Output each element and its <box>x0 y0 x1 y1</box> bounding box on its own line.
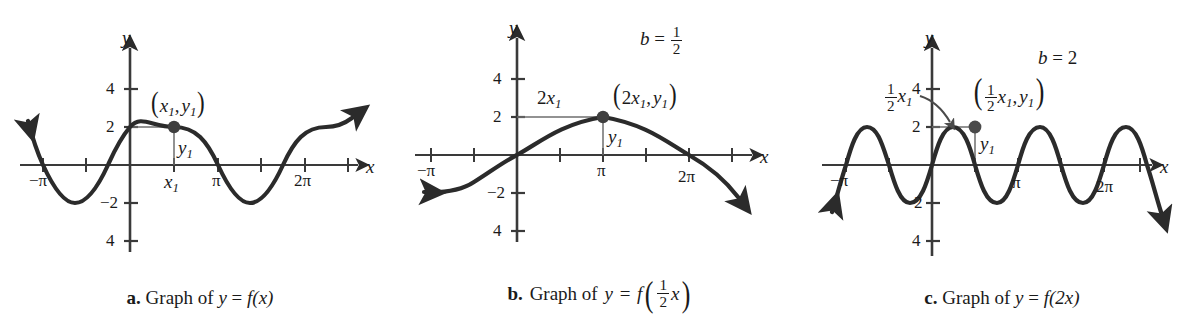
guide-x-denominator: 2 <box>885 97 897 114</box>
caption-y: y <box>218 287 226 308</box>
panel-c-b-value-annotation: b = 2 <box>1038 48 1077 67</box>
panel-c-svg <box>800 0 1204 276</box>
panel-c-marked-point <box>969 121 982 134</box>
panel-b-marked-point <box>597 111 609 123</box>
panel-c-y-axis-label: y <box>925 28 933 47</box>
panel-a-y-axis-label: y <box>122 28 130 47</box>
panel-b-y-axis-label: y <box>509 18 517 37</box>
guide-x-var: x <box>547 87 555 108</box>
caption-y: y <box>604 284 612 305</box>
panel-b-ytick-2: 2 <box>493 108 502 125</box>
paren-open: ( <box>151 92 159 113</box>
panel-a-guide-x-label: x1 <box>164 172 179 195</box>
annot-eq: = <box>654 28 665 49</box>
caption-body: Graph of <box>146 287 214 308</box>
panel-b-svg <box>400 0 800 276</box>
panel-b-ytick-neg4: 4 <box>493 222 502 239</box>
point-y-subscript: 1 <box>190 104 196 119</box>
panel-b-xtick-neg-pi: −π <box>417 162 435 179</box>
guide-x-subscript: 1 <box>906 94 912 109</box>
panel-a-x-axis-label: x <box>366 157 374 176</box>
guide-x-subscript: 1 <box>172 180 178 195</box>
panel-c-caption: c. Graph of y = f(2x) <box>800 288 1204 309</box>
caption-eq: = <box>232 287 243 308</box>
caption-prefix: a. <box>127 287 141 308</box>
point-y-var: y <box>181 95 189 116</box>
guide-x-subscript: 1 <box>555 96 561 111</box>
point-y-subscript: 1 <box>661 96 667 111</box>
panel-b-xtick-2pi: 2π <box>678 168 695 185</box>
annot-denominator: 2 <box>671 40 683 57</box>
caption-f: f <box>637 284 642 305</box>
panel-b-xtick-pi: π <box>597 162 606 179</box>
panel-a-ytick-4: 4 <box>106 80 115 97</box>
caption-x: x <box>671 284 679 305</box>
panel-a-marked-point <box>168 121 180 133</box>
panel-a-xtick-pi: π <box>212 172 221 189</box>
caption-eq: = <box>620 284 631 305</box>
panel-c-point-label: (12x1,y1) <box>972 80 1046 115</box>
caption-fraction: 12 <box>657 277 669 309</box>
panel-a-ytick-neg2: −2 <box>100 194 118 211</box>
annot-var: b <box>640 28 650 49</box>
caption-numerator: 1 <box>657 277 669 293</box>
caption-body: Graph of <box>530 284 598 305</box>
point-x-var: x <box>631 87 639 108</box>
panel-c-guide-y-label: y1 <box>980 134 995 157</box>
panel-b-graph-of-f-half-x: y x 4 2 −2 4 −π π 2π b = 12 2x1 (2x1,y1)… <box>400 0 800 331</box>
panel-a-point-label: (x1,y1) <box>150 92 206 119</box>
caption-arg: (2x) <box>1049 287 1080 308</box>
annot-var: b <box>1038 47 1048 68</box>
panel-b-caption: b. Graph of y = f(12x) <box>400 278 800 310</box>
panel-c-pointer-arrow <box>920 96 950 122</box>
paren-open: ( <box>974 80 983 102</box>
point-y-var: y <box>1019 86 1027 107</box>
panel-c-xtick-pi: π <box>1012 174 1021 191</box>
caption-denominator: 2 <box>657 293 669 310</box>
annot-eq: = 2 <box>1052 47 1077 68</box>
caption-prefix: c. <box>924 287 937 308</box>
point-x-var: x <box>998 86 1006 107</box>
point-numerator: 1 <box>985 82 997 98</box>
caption-arg: (x) <box>252 287 273 308</box>
panel-a-guide-y-label: y1 <box>178 138 193 161</box>
trig-transformation-figure: y x 4 2 −2 4 −π π 2π (x1,y1) y1 x1 a. Gr… <box>0 0 1204 331</box>
panel-c-ytick-4: 4 <box>912 80 921 97</box>
point-y-subscript: 1 <box>1028 95 1034 110</box>
point-denominator: 2 <box>985 97 997 114</box>
panel-b-guide-y-label: y1 <box>608 127 623 150</box>
panel-c-graph-of-f-2x: y x 4 2 2 4 −π π 2π b = 2 12x1 (12x1,y1)… <box>800 0 1204 331</box>
paren-open: ( <box>613 84 621 105</box>
caption-eq: = <box>1028 287 1039 308</box>
panel-a-plot <box>0 0 400 276</box>
point-x-var: x <box>160 95 168 116</box>
paren-close: ) <box>1036 80 1045 102</box>
panel-a-graph-of-f-x: y x 4 2 −2 4 −π π 2π (x1,y1) y1 x1 a. Gr… <box>0 0 400 331</box>
panel-c-ytick-neg2: 2 <box>914 194 923 211</box>
annot-numerator: 1 <box>671 24 683 40</box>
paren-close: ) <box>669 84 677 105</box>
caption-paren-close: ) <box>682 283 691 305</box>
point-fraction: 12 <box>985 82 997 114</box>
panel-a-caption: a. Graph of y = f(x) <box>0 288 400 309</box>
panel-a-svg <box>0 0 400 276</box>
guide-y-subscript: 1 <box>988 142 994 157</box>
caption-paren-open: ( <box>645 283 654 305</box>
panel-c-xtick-neg-pi: −π <box>830 172 848 189</box>
paren-close: ) <box>197 92 205 113</box>
guide-x-fraction: 12 <box>885 81 897 113</box>
panel-b-guide-x-label: 2x1 <box>537 88 561 111</box>
guide-x-coefficient: 2 <box>537 87 547 108</box>
caption-prefix: b. <box>508 284 523 305</box>
panel-b-x-axis-label: x <box>760 147 768 166</box>
point-comma: , <box>646 87 651 108</box>
panel-c-xtick-2pi: 2π <box>1096 178 1113 195</box>
point-comma: , <box>175 95 180 116</box>
guide-x-numerator: 1 <box>885 81 897 97</box>
panel-b-b-value-annotation: b = 12 <box>640 25 683 57</box>
panel-b-ytick-neg2: −2 <box>487 184 505 201</box>
panel-b-ytick-4: 4 <box>493 70 502 87</box>
caption-body: Graph of <box>942 287 1010 308</box>
panel-c-ytick-neg4: 4 <box>912 232 921 249</box>
panel-c-curve <box>832 127 1161 212</box>
